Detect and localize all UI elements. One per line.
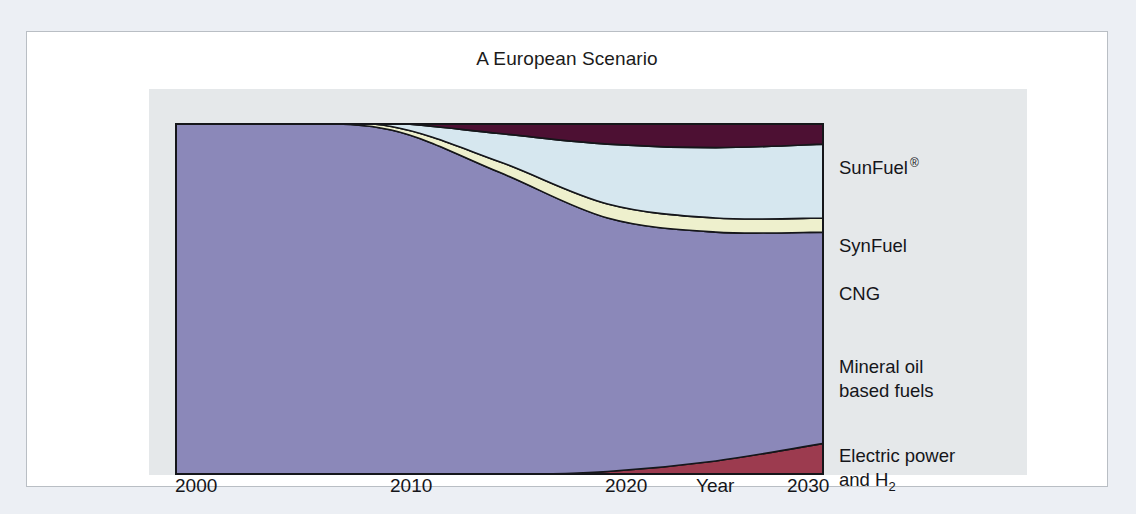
plot-area: [175, 123, 824, 475]
legend-label-mineral-oil-line1: Mineral oil: [839, 355, 934, 379]
x-axis-title: Year: [696, 475, 734, 497]
legend-label-h2-subscript: 2: [888, 479, 895, 494]
legend-label-electric-power-and-h: and H: [839, 469, 888, 490]
legend-label-sunfuel: SunFuel: [839, 157, 908, 178]
legend-item-electric-power: Electric power and H2: [839, 444, 955, 499]
figure-card: A European Scenario 2000 2010 2020 Year …: [26, 31, 1108, 487]
registered-trademark-icon: ®: [910, 156, 919, 170]
legend-item-cng: CNG: [839, 282, 880, 306]
x-tick-2010: 2010: [390, 475, 432, 497]
legend-item-synfuel: SynFuel: [839, 234, 907, 258]
x-tick-2030: 2030: [787, 475, 829, 497]
stacked-area-chart: [175, 123, 824, 475]
legend-label-mineral-oil-line2: based fuels: [839, 379, 934, 403]
page-background: A European Scenario 2000 2010 2020 Year …: [0, 0, 1136, 514]
figure-panel: 2000 2010 2020 Year 2030 SunFuel® SynFue…: [149, 89, 1027, 475]
page-title: A European Scenario: [27, 48, 1107, 70]
x-tick-2000: 2000: [175, 475, 217, 497]
legend-label-synfuel: SynFuel: [839, 235, 907, 256]
legend-item-sunfuel: SunFuel®: [839, 151, 919, 180]
legend-label-electric-power-line2: and H2: [839, 468, 955, 499]
legend-label-cng: CNG: [839, 283, 880, 304]
legend-label-electric-power-line1: Electric power: [839, 444, 955, 468]
legend: SunFuel® SynFuel CNG Mineral oil based f…: [839, 123, 1029, 475]
x-tick-2020: 2020: [605, 475, 647, 497]
x-axis: 2000 2010 2020 Year 2030: [175, 475, 875, 509]
legend-item-mineral-oil: Mineral oil based fuels: [839, 355, 934, 403]
